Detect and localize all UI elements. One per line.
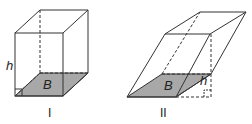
right-angle-mark-2 (204, 90, 211, 97)
height-label-1: h (6, 58, 13, 73)
prisms-diagram: h B I h B II (0, 0, 252, 124)
figure-label-2: II (160, 106, 167, 120)
base-label-2: B (164, 78, 173, 93)
base-label-1: B (43, 77, 52, 92)
figure-2-oblique-prism (127, 12, 246, 97)
height-label-2: h (200, 73, 207, 88)
figure-label-1: I (48, 106, 51, 120)
